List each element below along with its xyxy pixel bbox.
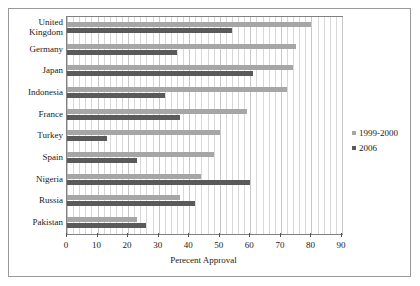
category-label: Japan bbox=[8, 65, 63, 75]
x-tick-label: 50 bbox=[214, 239, 223, 251]
x-tick bbox=[280, 233, 281, 237]
legend-swatch-icon bbox=[352, 146, 356, 150]
x-tick bbox=[97, 233, 98, 237]
bar-row bbox=[67, 169, 342, 191]
bar-1999-2000 bbox=[67, 217, 137, 222]
legend-entry-2006: 2006 bbox=[352, 143, 412, 153]
bar-row bbox=[67, 104, 342, 126]
legend-label: 2006 bbox=[359, 143, 377, 153]
legend-label: 1999-2000 bbox=[359, 128, 398, 138]
legend-entry-1999-2000: 1999-2000 bbox=[352, 128, 412, 138]
bar-row bbox=[67, 212, 342, 234]
bar-1999-2000 bbox=[67, 22, 311, 27]
category-label: Nigeria bbox=[8, 174, 63, 184]
category-label: Russia bbox=[8, 195, 63, 205]
bar-row bbox=[67, 191, 342, 213]
x-tick-label: 80 bbox=[306, 239, 315, 251]
x-tick bbox=[66, 233, 67, 237]
x-tick bbox=[341, 233, 342, 237]
bar-2006 bbox=[67, 223, 146, 228]
x-tick bbox=[249, 233, 250, 237]
bar-1999-2000 bbox=[67, 152, 214, 157]
category-label: Germany bbox=[8, 44, 63, 54]
x-axis-tick-labels: 0102030405060708090 bbox=[66, 239, 341, 253]
bar-2006 bbox=[67, 71, 253, 76]
bar-row bbox=[67, 147, 342, 169]
bar-1999-2000 bbox=[67, 130, 220, 135]
chart-figure: United KingdomGermanyJapanIndonesiaFranc… bbox=[0, 0, 420, 286]
plot-area bbox=[66, 16, 343, 235]
x-tick-label: 70 bbox=[275, 239, 284, 251]
x-axis-ticks bbox=[66, 233, 341, 238]
bar-row bbox=[67, 39, 342, 61]
chart-legend: 1999-2000 2006 bbox=[352, 128, 412, 158]
x-tick bbox=[188, 233, 189, 237]
bar-2006 bbox=[67, 136, 107, 141]
x-tick-label: 40 bbox=[184, 239, 193, 251]
bar-1999-2000 bbox=[67, 174, 201, 179]
bar-rows bbox=[67, 17, 342, 234]
x-tick-label: 90 bbox=[337, 239, 346, 251]
x-axis-title: Perecent Approval bbox=[66, 254, 341, 266]
bar-1999-2000 bbox=[67, 65, 293, 70]
bar-2006 bbox=[67, 158, 137, 163]
x-tick bbox=[158, 233, 159, 237]
bar-row bbox=[67, 17, 342, 39]
category-label: Spain bbox=[8, 152, 63, 162]
x-tick-label: 10 bbox=[92, 239, 101, 251]
bar-2006 bbox=[67, 201, 195, 206]
gridline bbox=[342, 17, 343, 234]
bar-1999-2000 bbox=[67, 44, 296, 49]
category-label: United Kingdom bbox=[8, 17, 63, 37]
bar-2006 bbox=[67, 180, 250, 185]
x-tick-label: 30 bbox=[153, 239, 162, 251]
bar-2006 bbox=[67, 115, 180, 120]
bar-row bbox=[67, 82, 342, 104]
bar-row bbox=[67, 126, 342, 148]
bar-1999-2000 bbox=[67, 109, 247, 114]
x-tick bbox=[219, 233, 220, 237]
bar-1999-2000 bbox=[67, 195, 180, 200]
x-tick bbox=[310, 233, 311, 237]
category-label: Turkey bbox=[8, 130, 63, 140]
x-tick-label: 0 bbox=[64, 239, 69, 251]
category-label: Pakistan bbox=[8, 217, 63, 227]
y-axis-category-labels: United KingdomGermanyJapanIndonesiaFranc… bbox=[8, 16, 63, 233]
x-tick bbox=[127, 233, 128, 237]
bar-2006 bbox=[67, 93, 165, 98]
category-label: France bbox=[8, 109, 63, 119]
bar-row bbox=[67, 60, 342, 82]
bar-2006 bbox=[67, 50, 177, 55]
x-tick-label: 60 bbox=[245, 239, 254, 251]
bar-1999-2000 bbox=[67, 87, 287, 92]
bar-2006 bbox=[67, 28, 232, 33]
legend-swatch-icon bbox=[352, 131, 356, 135]
x-tick-label: 20 bbox=[123, 239, 132, 251]
category-label: Indonesia bbox=[8, 87, 63, 97]
